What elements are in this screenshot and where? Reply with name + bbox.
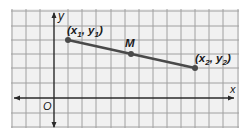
coordinate-plane: y x O (x1, y1) M (x2, y2)	[0, 0, 245, 139]
origin-label: O	[43, 100, 52, 112]
x-axis-label: x	[229, 83, 236, 95]
midpoint-m	[128, 51, 134, 57]
y-axis-label: y	[57, 9, 65, 23]
midpoint-label: M	[125, 37, 135, 49]
endpoint-1	[65, 37, 71, 43]
endpoint-2	[192, 65, 198, 71]
